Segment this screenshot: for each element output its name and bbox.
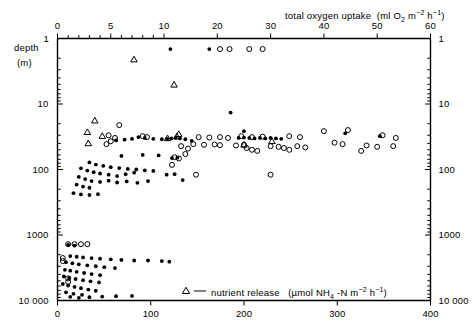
tick-label: 40 [318, 20, 329, 31]
tick-label: 100 [439, 164, 455, 175]
tick-label: 1000 [27, 229, 49, 240]
tick-label: 10 000 [439, 295, 469, 306]
tick-label: 200 [236, 308, 252, 319]
tick-label: 0 [55, 20, 60, 31]
plot-frame [58, 39, 431, 301]
tick-label: 100 [33, 164, 49, 175]
tick-label: 10 [38, 98, 49, 109]
tick-label: 1 [44, 33, 49, 44]
tick-label: 50 [372, 20, 383, 31]
y-axis-units: (m) [17, 57, 32, 68]
axis-ticks [58, 34, 431, 306]
scatter-plot-figure [0, 0, 472, 334]
tick-label: 100 [143, 308, 159, 319]
tick-label: 10 [439, 98, 450, 109]
legend-marker [182, 287, 206, 293]
data-points [60, 47, 398, 300]
tick-label: 10 000 [19, 295, 49, 306]
tick-label: 30 [265, 20, 276, 31]
tick-label: 300 [329, 308, 345, 319]
tick-label: 20 [212, 20, 223, 31]
legend-label: nutrient release (µmol NH4 -N m−2 h−1) [211, 286, 387, 300]
y-axis-title: depth [14, 42, 39, 53]
tick-label: 400 [422, 308, 438, 319]
tick-label: 5 [108, 20, 113, 31]
tick-label: 1 [439, 33, 444, 44]
tick-label: 10 [159, 20, 170, 31]
tick-label: 1000 [439, 229, 461, 240]
tick-label: 0 [55, 308, 60, 319]
tick-label: 60 [425, 20, 436, 31]
top-axis-title: total oxygen uptake (ml O2 m−2 h−1) [285, 9, 445, 23]
